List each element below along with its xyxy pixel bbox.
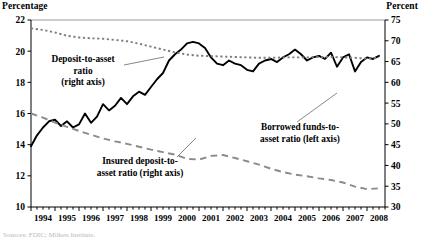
y-tick-label: 16 xyxy=(16,109,26,119)
x-tick-label: 2005 xyxy=(298,213,317,223)
annotation-insured-deposit-to-asset: asset ratio (right axis) xyxy=(97,168,184,179)
chart-plot: 10121416182022 30354045505560657075 1994… xyxy=(0,0,421,238)
y-axis-ticks: 10121416182022 xyxy=(16,15,32,212)
x-tick-label: 1997 xyxy=(106,213,125,223)
x-tick-label: 1998 xyxy=(130,213,149,223)
y2-tick-label: 55 xyxy=(391,99,401,109)
x-tick-label: 1999 xyxy=(154,213,173,223)
y2-tick-label: 45 xyxy=(391,140,401,150)
y2-tick-label: 35 xyxy=(391,182,401,192)
x-tick-label: 2001 xyxy=(202,213,221,223)
y2-tick-label: 40 xyxy=(391,161,401,171)
x-axis-ticks: 1994199519961997199819992000200120022003… xyxy=(31,207,389,223)
x-tick-label: 2002 xyxy=(226,213,245,223)
y2-tick-label: 60 xyxy=(391,78,401,88)
y2-tick-label: 30 xyxy=(391,202,401,212)
x-tick-label: 1994 xyxy=(34,213,53,223)
annotation-insured-deposit-to-asset: Insured deposit-to- xyxy=(102,156,178,166)
annotation-deposit-to-asset: ratio xyxy=(73,66,92,76)
x-tick-label: 2007 xyxy=(346,213,365,223)
data-series-group xyxy=(31,28,379,189)
annotation-borrowed-funds-to-asset: asset ratio (left axis) xyxy=(260,134,340,145)
leader-borrowed xyxy=(297,93,337,122)
x-tick-label: 2000 xyxy=(178,213,197,223)
y-tick-label: 10 xyxy=(16,202,26,212)
x-tick-label: 2004 xyxy=(274,213,293,223)
annotation-borrowed-funds-to-asset: Borrowed funds-to- xyxy=(261,122,339,132)
x-tick-label: 2008 xyxy=(370,213,389,223)
x-tick-label: 2003 xyxy=(250,213,269,223)
y2-tick-label: 65 xyxy=(391,57,401,67)
y2-tick-label: 70 xyxy=(391,36,401,46)
x-tick-label: 1996 xyxy=(82,213,101,223)
y2-tick-label: 75 xyxy=(391,15,401,25)
y-tick-label: 12 xyxy=(16,171,26,181)
x-tick-label: 2006 xyxy=(322,213,341,223)
x-tick-label: 1995 xyxy=(58,213,77,223)
source-note: Sources: FDIC; Milken Institute. xyxy=(3,231,95,238)
y-tick-label: 18 xyxy=(16,78,26,88)
leader-deposit xyxy=(124,57,164,65)
y2-tick-label: 50 xyxy=(391,119,401,129)
annotation-deposit-to-asset: (right axis) xyxy=(61,77,105,88)
y-tick-label: 14 xyxy=(16,140,26,150)
leader-insured xyxy=(177,138,196,157)
y2-axis-ticks: 30354045505560657075 xyxy=(385,15,401,212)
y-tick-label: 22 xyxy=(16,15,26,25)
annotation-deposit-to-asset: Deposit-to-asset xyxy=(52,54,116,64)
chart-figure: Percentage Percent 10121416182022 303540… xyxy=(0,0,421,238)
y-tick-label: 20 xyxy=(16,47,26,57)
